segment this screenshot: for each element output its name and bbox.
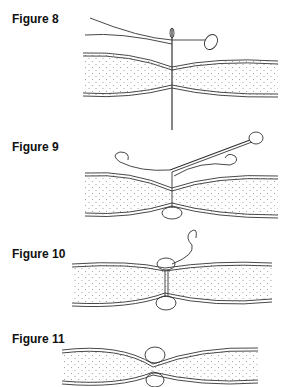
figure-8-drawing <box>83 18 278 130</box>
figure-10-drawing <box>72 230 272 310</box>
tufting-illustration <box>0 0 288 387</box>
figure-9-drawing <box>85 132 278 219</box>
figure-11-drawing <box>62 347 258 387</box>
